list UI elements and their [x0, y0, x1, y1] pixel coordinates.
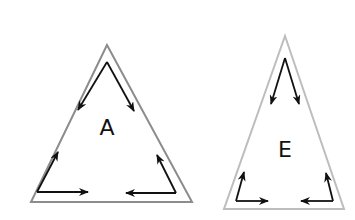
triangles-diagram: A E — [0, 0, 355, 220]
triangle-a: A — [31, 45, 192, 202]
triangle-e: E — [224, 36, 344, 209]
arrow-icon — [37, 152, 58, 192]
arrow-icon — [78, 62, 107, 110]
triangle-a-label: A — [99, 115, 114, 140]
triangle-e-label: E — [278, 137, 292, 162]
arrow-icon — [236, 172, 244, 201]
arrow-icon — [285, 58, 299, 104]
arrow-icon — [157, 155, 176, 193]
arrow-icon — [271, 58, 285, 104]
arrow-icon — [326, 173, 333, 201]
